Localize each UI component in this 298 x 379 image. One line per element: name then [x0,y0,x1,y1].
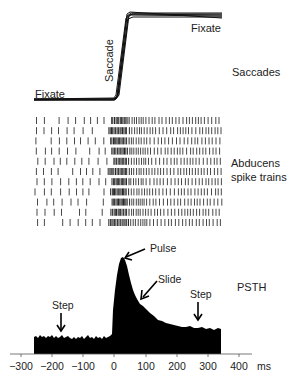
figure-graphics [0,0,298,379]
fixate-before-label: Fixate [35,88,65,100]
saccades-panel-label: Saccades [232,66,280,78]
tick-label: 0 [111,360,117,372]
axis-unit-label: ms [257,360,271,372]
raster-label-line1: Abducens [231,157,280,169]
tick-label: −100 [71,360,95,372]
x-axis [10,354,252,357]
tick-label: −200 [40,360,64,372]
tick-label: 200 [168,360,186,372]
spike-raster [35,117,222,226]
saccade-label: Saccade [103,39,115,82]
step-right-label: Step [190,288,212,300]
tick-label: 400 [230,360,248,372]
psth-panel-label: PSTH [237,281,266,293]
slide-label: Slide [158,273,181,285]
raster-label-line2: spike trains [231,171,287,183]
step-left-label: Step [52,299,74,311]
fixate-after-label: Fixate [191,22,221,34]
tick-label: 100 [137,360,155,372]
tick-label: −300 [9,360,33,372]
pulse-label: Pulse [150,242,176,254]
tick-label: 300 [199,360,217,372]
